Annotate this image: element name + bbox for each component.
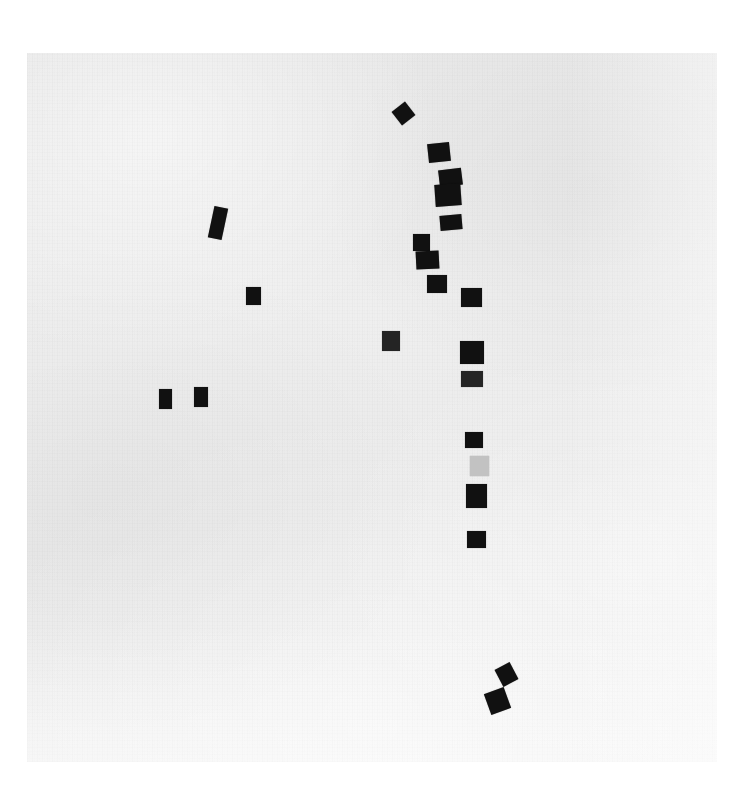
scan-mark (434, 183, 461, 207)
scan-mark (467, 531, 486, 548)
scan-mark (465, 432, 483, 448)
scan-mark (439, 214, 462, 231)
scan-mark (461, 371, 483, 387)
scan-mark (470, 456, 489, 476)
scan-mark (159, 389, 172, 409)
image-canvas (0, 0, 744, 799)
scan-mark (427, 275, 447, 293)
scan-mark (194, 387, 208, 407)
scan-mark (413, 234, 430, 251)
scan-mark (415, 250, 439, 269)
scan-mark (382, 331, 400, 351)
scan-mark (460, 341, 484, 364)
scan-vignette-overlay (27, 53, 717, 762)
scan-mark (466, 484, 487, 508)
scan-field-background (27, 53, 717, 762)
scan-mark (246, 287, 261, 305)
scan-mark (427, 141, 451, 162)
scan-mark (461, 288, 482, 307)
